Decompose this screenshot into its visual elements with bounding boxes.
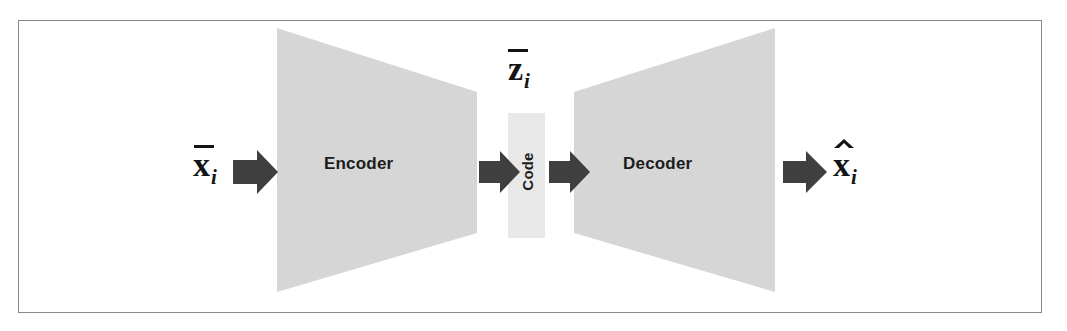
arrow-decoder-to-output xyxy=(783,151,827,193)
output-base-symbol: x xyxy=(833,148,850,182)
input-vector-label: xi xyxy=(193,148,216,182)
encoder-label: Encoder xyxy=(324,154,393,174)
hat-accent-output xyxy=(834,139,854,148)
code-label: Code xyxy=(519,140,536,204)
autoencoder-figure: Encoder Code Decoder xi zi xi xyxy=(0,0,1067,331)
output-subscript: i xyxy=(851,167,857,188)
input-base-symbol: x xyxy=(193,148,210,182)
latent-base-symbol: z xyxy=(508,52,523,86)
decoder-label: Decoder xyxy=(623,154,692,174)
latent-vector-label: zi xyxy=(508,52,529,86)
overbar-accent-latent xyxy=(508,49,528,52)
output-vector-label: xi xyxy=(833,148,856,182)
input-subscript: i xyxy=(211,167,217,188)
arrow-input-to-encoder xyxy=(233,150,278,194)
overbar-accent-input xyxy=(194,145,214,148)
latent-subscript: i xyxy=(524,71,530,92)
